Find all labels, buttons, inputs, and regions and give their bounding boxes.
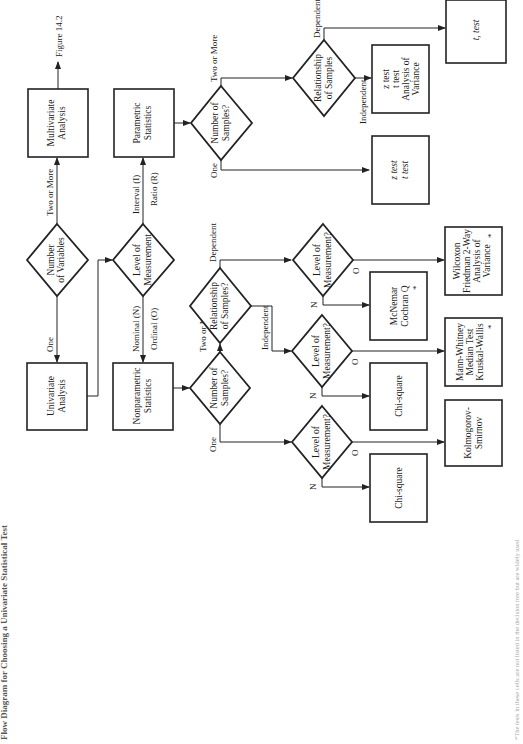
svg-text:McNemar: McNemar xyxy=(389,286,399,325)
number-of-variables-diamond: Number of Variables xyxy=(27,224,88,296)
svg-text:Multivariate: Multivariate xyxy=(46,100,56,147)
svg-text:Level of: Level of xyxy=(132,243,142,276)
asterisk-mark: * xyxy=(486,233,496,238)
svg-text:Parametric: Parametric xyxy=(132,102,142,143)
svg-text:Measurement?: Measurement? xyxy=(322,414,332,470)
svg-text:Number of: Number of xyxy=(210,101,220,143)
edge-label-nominal: Nominal (N) xyxy=(131,306,141,352)
t-r-test-box: t, test xyxy=(446,0,506,63)
svg-text:Analysis: Analysis xyxy=(57,379,67,413)
svg-text:Measurement?: Measurement? xyxy=(323,232,333,288)
svg-text:Level of: Level of xyxy=(311,425,321,458)
svg-text:Analysis of: Analysis of xyxy=(472,238,482,282)
parametric-statistics-box: Parametric Statistics xyxy=(114,89,174,157)
svg-text:Level of: Level of xyxy=(311,334,321,367)
svg-text:Kolmogorov-: Kolmogorov- xyxy=(463,407,473,459)
edge-label-interval: Interval (I) xyxy=(131,175,141,214)
svg-text:Samples?: Samples? xyxy=(220,370,230,406)
svg-text:Number of: Number of xyxy=(209,366,219,408)
svg-text:Cochran Q: Cochran Q xyxy=(400,285,410,327)
edge-label-np-one: One xyxy=(208,437,218,452)
svg-text:Variance: Variance xyxy=(482,244,492,277)
svg-text:Relationship: Relationship xyxy=(313,54,323,102)
edge-label-ratio: Ratio (R) xyxy=(149,172,159,206)
svg-text:z test: z test xyxy=(389,160,399,181)
edge-label-np-dependent: Dependent xyxy=(208,223,218,262)
diagram-title: Flow Diagram for Choosing a Univariate S… xyxy=(0,525,9,740)
svg-text:Univariate: Univariate xyxy=(46,376,56,416)
svg-text:Number: Number xyxy=(46,244,56,276)
chi-square-box-1: Chi-square xyxy=(370,454,427,522)
np-level-of-measurement-dependent-diamond: Level of Measurement? xyxy=(293,224,353,296)
z-t-anova-box: z test t test Analysis of Variance xyxy=(372,45,429,113)
np-number-of-samples-diamond: Number of Samples? xyxy=(190,352,250,424)
edge-label-p-one: One xyxy=(209,163,219,178)
edge-label-o-3: O xyxy=(351,267,361,274)
svg-text:z test: z test xyxy=(381,69,391,89)
svg-text:of Variables: of Variables xyxy=(56,237,66,283)
np-level-of-measurement-one-diamond: Level of Measurement? xyxy=(292,406,352,478)
edge-label-p-independent: Independent xyxy=(358,79,368,124)
svg-text:Smirnov: Smirnov xyxy=(474,416,484,449)
svg-text:Chi-square: Chi-square xyxy=(394,375,404,417)
svg-text:Analysis: Analysis xyxy=(57,106,67,140)
edge-label-np-independent: Independent xyxy=(260,305,270,350)
svg-text:Measurement: Measurement xyxy=(143,234,153,286)
kolmogorov-smirnov-box: Kolmogorov- Smirnov xyxy=(445,400,502,466)
svg-text:Friedman 2-Way: Friedman 2-Way xyxy=(462,229,472,293)
svg-text:Measurement?: Measurement? xyxy=(322,323,332,379)
edge-label-one: One xyxy=(45,337,55,352)
svg-text:of Samples: of Samples xyxy=(324,56,334,99)
univariate-analysis-box: Univariate Analysis xyxy=(27,363,87,430)
svg-text:Analysis of: Analysis of xyxy=(401,56,411,100)
multivariate-analysis-box: Multivariate Analysis xyxy=(28,89,88,157)
svg-text:Statistics: Statistics xyxy=(143,379,153,414)
edge-label-n-1: N xyxy=(308,483,318,490)
p-relationship-of-samples-diamond: Relationship of Samples xyxy=(293,40,355,116)
svg-text:Kruskal-Wallis: Kruskal-Wallis xyxy=(475,323,485,381)
edge-label-p-two-or-more: Two or More xyxy=(209,35,219,82)
edge-label-o-2: O xyxy=(350,358,360,365)
level-of-measurement-diamond: Level of Measurement xyxy=(113,224,174,296)
svg-text:t test: t test xyxy=(400,161,410,180)
svg-text:t, test: t, test xyxy=(471,19,481,40)
z-t-test-box: z test t test xyxy=(372,136,429,204)
flow-diagram: Flow Diagram for Choosing a Univariate S… xyxy=(0,0,523,744)
chi-square-box-2: Chi-square xyxy=(370,363,427,430)
svg-text:Nonparametric: Nonparametric xyxy=(132,368,142,425)
svg-text:Level of: Level of xyxy=(312,243,322,276)
svg-text:Variance: Variance xyxy=(411,62,421,95)
footnote: *The tests in these cells are not listed… xyxy=(513,539,520,740)
svg-text:Samples?: Samples? xyxy=(221,105,231,141)
np-level-of-measurement-independent-diamond: Level of Measurement? xyxy=(292,315,352,387)
edge-label-o-1: O xyxy=(350,449,360,456)
asterisk-mark: * xyxy=(486,324,496,329)
mcnemar-cochran-box: McNemar Cochran Q * xyxy=(370,272,427,340)
p-number-of-samples-diamond: Number of Samples? xyxy=(191,86,252,160)
svg-text:t test: t test xyxy=(391,70,401,89)
nonparametric-statistics-box: Nonparametric Statistics xyxy=(113,363,173,430)
asterisk-mark: * xyxy=(411,285,421,290)
mann-whitney-box: Mann-Whitney Median Test Kruskal-Wallis … xyxy=(445,318,502,386)
svg-text:of Samples?: of Samples? xyxy=(220,283,230,330)
svg-text:Wilcoxon: Wilcoxon xyxy=(452,242,462,279)
wilcoxon-friedman-box: Wilcoxon Friedman 2-Way Analysis of Vari… xyxy=(445,227,502,295)
svg-text:Relationship: Relationship xyxy=(209,282,219,330)
svg-text:Statistics: Statistics xyxy=(143,106,153,141)
svg-text:Chi-square: Chi-square xyxy=(394,467,404,509)
edge-label-ordinal: Ordinal (O) xyxy=(149,308,159,350)
svg-text:Mann-Whitney: Mann-Whitney xyxy=(455,323,465,381)
figure-reference: Figure 14.2 xyxy=(54,16,64,58)
edge-label-p-dependent: Dependent xyxy=(312,0,322,38)
edge-label-n-2: N xyxy=(308,392,318,399)
svg-text:Median Test: Median Test xyxy=(465,328,475,375)
edge-label-n-3: N xyxy=(309,301,319,308)
edge-label-two-or-more: Two or More xyxy=(45,169,55,216)
